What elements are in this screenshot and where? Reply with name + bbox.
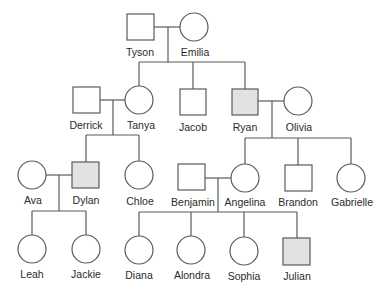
- sibship-tyson-emilia: [139, 62, 245, 89]
- person-ryan: Ryan: [232, 89, 258, 133]
- person-alondra: Alondra: [174, 236, 210, 281]
- name-label: Leah: [20, 268, 44, 280]
- name-label: Gabrielle: [331, 196, 373, 208]
- person-ava: Ava: [18, 161, 46, 206]
- affected-male-square-icon: [232, 89, 258, 115]
- person-gabrielle: Gabrielle: [331, 164, 373, 208]
- name-label: Julian: [283, 270, 311, 282]
- person-diana: Diana: [125, 236, 153, 281]
- female-circle-icon: [231, 164, 259, 192]
- male-square-icon: [180, 89, 206, 115]
- name-label: Alondra: [174, 269, 210, 281]
- female-circle-icon: [284, 87, 312, 115]
- name-label: Ava: [24, 194, 42, 206]
- person-olivia: Olivia: [284, 87, 312, 133]
- pedigree-chart: Tyson Emilia Derrick Tanya Jacob Ryan Ol…: [0, 0, 391, 294]
- affected-male-square-icon: [283, 238, 310, 265]
- person-sophia: Sophia: [228, 237, 261, 282]
- person-benjamin: Benjamin: [171, 164, 215, 208]
- female-circle-icon: [125, 236, 153, 264]
- affected-male-square-icon: [72, 162, 99, 188]
- person-angelina: Angelina: [225, 164, 266, 208]
- name-label: Sophia: [228, 270, 261, 282]
- female-circle-icon: [337, 164, 365, 192]
- couple-ava-dylan: [46, 175, 72, 211]
- name-label: Dylan: [73, 194, 100, 206]
- sibship-derrick-tanya: [86, 135, 139, 162]
- person-chloe: Chloe: [125, 161, 154, 207]
- sibship-benjamin-angelina: [139, 212, 297, 238]
- female-circle-icon: [180, 13, 208, 41]
- person-emilia: Emilia: [180, 13, 209, 58]
- female-circle-icon: [125, 86, 153, 114]
- person-tyson: Tyson: [126, 14, 154, 58]
- name-label: Angelina: [225, 196, 266, 208]
- person-julian: Julian: [283, 238, 311, 282]
- person-tanya: Tanya: [125, 86, 155, 131]
- name-label: Tanya: [127, 119, 155, 131]
- name-label: Ryan: [233, 121, 258, 133]
- couple-tyson-emilia: [154, 27, 180, 62]
- couple-derrick-tanya: [100, 100, 125, 135]
- person-jackie: Jackie: [71, 235, 101, 280]
- female-circle-icon: [125, 161, 153, 189]
- name-label: Emilia: [181, 46, 210, 58]
- name-label: Diana: [125, 269, 153, 281]
- person-leah: Leah: [18, 235, 46, 280]
- male-square-icon: [73, 87, 100, 113]
- sibship-ava-dylan: [32, 211, 86, 235]
- sibship-ryan-olivia: [245, 138, 351, 165]
- female-circle-icon: [18, 235, 46, 263]
- person-jacob: Jacob: [179, 89, 207, 133]
- female-circle-icon: [72, 235, 100, 263]
- name-label: Derrick: [69, 119, 103, 131]
- male-square-icon: [178, 164, 205, 190]
- male-square-icon: [127, 14, 154, 40]
- female-circle-icon: [230, 237, 258, 265]
- name-label: Tyson: [126, 46, 154, 58]
- name-label: Jacob: [179, 121, 207, 133]
- person-dylan: Dylan: [72, 162, 100, 206]
- name-label: Brandon: [278, 196, 318, 208]
- person-brandon: Brandon: [278, 165, 318, 208]
- name-label: Jackie: [71, 268, 101, 280]
- female-circle-icon: [177, 236, 205, 264]
- name-label: Benjamin: [171, 196, 215, 208]
- female-circle-icon: [18, 161, 46, 189]
- name-label: Chloe: [126, 195, 154, 207]
- couple-ryan-olivia: [258, 101, 284, 138]
- person-derrick: Derrick: [69, 87, 103, 131]
- male-square-icon: [285, 165, 312, 191]
- name-label: Olivia: [286, 121, 312, 133]
